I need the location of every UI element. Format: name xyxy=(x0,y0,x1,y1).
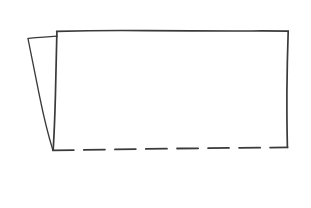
rectangle-bottom-edge-dashed xyxy=(53,147,288,150)
rectangle-right-edge xyxy=(287,31,288,147)
flap-top-edge xyxy=(28,36,57,38)
rectangle-top-edge xyxy=(57,30,288,31)
flap-diagonal-edge xyxy=(28,39,53,151)
diagram-canvas xyxy=(0,0,311,208)
hand-drawn-figure xyxy=(0,0,311,208)
rectangle-left-edge xyxy=(53,32,57,151)
